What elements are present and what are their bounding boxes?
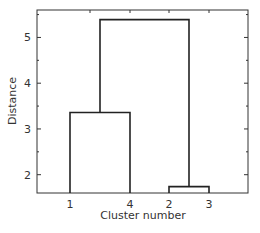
x-tick-label: 3: [206, 198, 213, 211]
link-2-3: [169, 187, 209, 193]
dendrogram-links: [70, 20, 209, 193]
axes-box: [37, 10, 248, 193]
y-tick-labels: 2345: [24, 31, 31, 181]
link-root: [100, 20, 189, 187]
link-1-4: [70, 112, 130, 193]
dendrogram-chart: 2345 1423 Cluster number Distance: [0, 0, 260, 233]
y-axis-ticks: [37, 15, 248, 175]
x-axis-label: Cluster number: [100, 209, 186, 222]
plot-area: [37, 10, 248, 193]
y-tick-label: 3: [24, 123, 31, 136]
y-tick-label: 4: [24, 77, 31, 90]
x-tick-label: 1: [67, 198, 74, 211]
y-tick-label: 5: [24, 31, 31, 44]
y-axis-label: Distance: [6, 77, 19, 125]
y-tick-label: 2: [24, 169, 31, 182]
